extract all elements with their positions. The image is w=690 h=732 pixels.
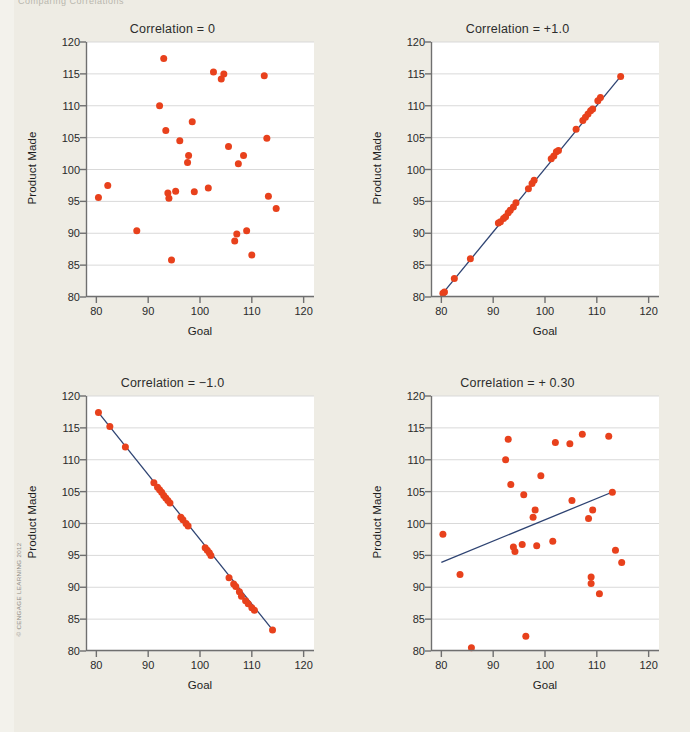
y-axis-label: Product Made	[26, 462, 38, 582]
y-tick-label: 90	[391, 581, 425, 593]
x-tick-labels: 8090100110120	[431, 659, 659, 675]
x-tick-label: 90	[473, 305, 513, 317]
x-tick-label: 90	[128, 305, 168, 317]
y-tick-label: 95	[46, 549, 80, 561]
plot-area	[431, 396, 659, 651]
x-axis-label: Goal	[431, 325, 659, 337]
y-tick-label: 80	[46, 645, 80, 657]
y-tick-label: 115	[391, 422, 425, 434]
x-tick-label: 120	[629, 659, 669, 671]
y-tick-label: 95	[391, 195, 425, 207]
plot-area	[431, 42, 659, 297]
y-tick-label: 90	[46, 227, 80, 239]
x-tick-label: 100	[180, 659, 220, 671]
y-tick-label: 115	[391, 68, 425, 80]
y-tick-label: 110	[46, 454, 80, 466]
chart-panel-correlation-zero: Correlation = 0 Product Made 80859095100…	[0, 0, 345, 366]
x-tick-labels: 8090100110120	[86, 659, 314, 675]
y-tick-label: 85	[391, 259, 425, 271]
y-tick-label: 105	[46, 486, 80, 498]
y-axis-label: Product Made	[371, 462, 383, 582]
x-tick-label: 80	[76, 659, 116, 671]
y-tick-label: 105	[46, 132, 80, 144]
y-axis-label: Product Made	[26, 108, 38, 228]
chart-title: Correlation = −1.0	[0, 376, 345, 390]
y-tick-label: 115	[46, 422, 80, 434]
x-tick-label: 110	[577, 305, 617, 317]
y-tick-label: 85	[391, 613, 425, 625]
y-tick-label: 120	[391, 390, 425, 402]
x-tick-label: 80	[76, 305, 116, 317]
x-tick-label: 120	[629, 305, 669, 317]
y-tick-label: 110	[391, 100, 425, 112]
figure-page: Comparing Correlations © CENGAGE LEARNIN…	[0, 0, 690, 732]
x-tick-label: 120	[284, 659, 324, 671]
y-tick-label: 95	[46, 195, 80, 207]
y-tick-label: 85	[46, 259, 80, 271]
x-axis-label: Goal	[86, 679, 314, 691]
x-tick-labels: 8090100110120	[86, 305, 314, 321]
y-tick-label: 85	[46, 613, 80, 625]
x-tick-label: 100	[180, 305, 220, 317]
x-tick-label: 80	[421, 659, 461, 671]
x-tick-labels: 8090100110120	[431, 305, 659, 321]
y-tick-label: 120	[391, 36, 425, 48]
chart-title: Correlation = +1.0	[345, 22, 690, 36]
y-tick-label: 105	[391, 132, 425, 144]
y-tick-label: 110	[391, 454, 425, 466]
x-tick-label: 80	[421, 305, 461, 317]
x-tick-label: 100	[525, 659, 565, 671]
chart-panel-correlation-minus-one: Correlation = −1.0 Product Made 80859095…	[0, 366, 345, 732]
chart-panel-correlation-plus-point-three: Correlation = + 0.30 Product Made 808590…	[345, 366, 690, 732]
y-tick-labels: 80859095100105110115120	[389, 42, 425, 297]
y-axis-label: Product Made	[371, 108, 383, 228]
x-tick-label: 90	[128, 659, 168, 671]
plot-area	[86, 396, 314, 651]
x-tick-label: 90	[473, 659, 513, 671]
x-tick-label: 110	[232, 659, 272, 671]
y-tick-label: 95	[391, 549, 425, 561]
x-axis-label: Goal	[86, 325, 314, 337]
y-tick-label: 110	[46, 100, 80, 112]
y-tick-labels: 80859095100105110115120	[44, 42, 80, 297]
x-tick-label: 110	[577, 659, 617, 671]
x-tick-label: 100	[525, 305, 565, 317]
y-tick-label: 100	[391, 164, 425, 176]
y-tick-label: 100	[46, 518, 80, 530]
y-tick-label: 80	[391, 291, 425, 303]
y-tick-label: 100	[391, 518, 425, 530]
x-axis-label: Goal	[431, 679, 659, 691]
plot-area	[86, 42, 314, 297]
y-tick-label: 80	[391, 645, 425, 657]
y-tick-label: 90	[46, 581, 80, 593]
y-tick-label: 115	[46, 68, 80, 80]
y-tick-label: 105	[391, 486, 425, 498]
x-tick-label: 120	[284, 305, 324, 317]
y-tick-label: 90	[391, 227, 425, 239]
y-tick-labels: 80859095100105110115120	[389, 396, 425, 651]
y-tick-label: 120	[46, 390, 80, 402]
x-tick-label: 110	[232, 305, 272, 317]
y-tick-labels: 80859095100105110115120	[44, 396, 80, 651]
y-tick-label: 120	[46, 36, 80, 48]
chart-title: Correlation = + 0.30	[345, 376, 690, 390]
chart-title: Correlation = 0	[0, 22, 345, 36]
chart-panel-correlation-plus-one: Correlation = +1.0 Product Made 80859095…	[345, 0, 690, 366]
y-tick-label: 80	[46, 291, 80, 303]
y-tick-label: 100	[46, 164, 80, 176]
